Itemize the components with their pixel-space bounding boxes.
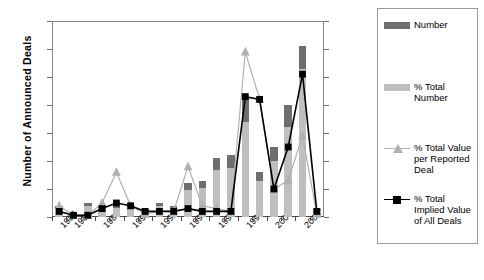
right-axis-tick [324, 133, 329, 134]
marker-square [56, 208, 63, 215]
x-axis-tick [95, 217, 96, 221]
legend-item: Number [384, 19, 474, 30]
marker-square [84, 212, 91, 219]
x-axis-tick [81, 217, 82, 221]
marker-square [113, 200, 120, 207]
right-axis-tick [324, 21, 329, 22]
marker-triangle [298, 131, 307, 140]
legend-item-label: % Total Value per Reported Deal [414, 142, 474, 175]
legend-item-label: Number [414, 19, 448, 30]
x-axis-tick [109, 217, 110, 221]
legend-marker-icon [384, 194, 410, 205]
marker-square [213, 208, 220, 215]
plot-area: 010203040506070 0%5%10%15%20%25%30%35% 1… [52, 21, 324, 217]
marker-square [228, 208, 235, 215]
x-axis-tick [252, 217, 253, 221]
x-axis-tick [310, 217, 311, 221]
marker-square [142, 208, 149, 215]
legend-item: % Total Value per Reported Deal [384, 142, 474, 175]
x-axis-tick [66, 217, 67, 221]
x-axis-tick [52, 217, 53, 221]
chart-legend: Number% Total Number% Total Value per Re… [377, 8, 478, 244]
legend-item: % Total Implied Value of All Deals [384, 193, 474, 226]
marker-square [156, 208, 163, 215]
legend-swatch-icon [384, 22, 410, 29]
marker-square [285, 144, 292, 151]
chart-figure: Number of Announced Deals Percent of 198… [0, 0, 484, 280]
marker-triangle [184, 162, 193, 171]
legend-triangle-icon [393, 144, 403, 153]
legend-marker-icon [384, 143, 410, 154]
marker-square [271, 186, 278, 193]
x-axis-tick [195, 217, 196, 221]
right-axis-tick [324, 105, 329, 106]
marker-square [242, 93, 249, 100]
marker-triangle [112, 167, 121, 176]
right-axis-tick [324, 189, 329, 190]
right-axis-tick [324, 217, 329, 218]
x-axis-tick [138, 217, 139, 221]
x-axis-tick [295, 217, 296, 221]
marker-triangle [284, 176, 293, 185]
x-axis-tick [267, 217, 268, 221]
marker-square [70, 212, 77, 219]
left-axis-title: Number of Announced Deals [21, 26, 33, 196]
legend-swatch-icon [384, 84, 410, 91]
marker-square [199, 208, 206, 215]
x-axis-tick [167, 217, 168, 221]
line-value-per-deal [59, 52, 317, 216]
marker-triangle [241, 47, 250, 56]
legend-item-label: % Total Number [414, 81, 474, 103]
marker-square [170, 208, 177, 215]
legend-item-label: % Total Implied Value of All Deals [414, 193, 474, 226]
legend-item: % Total Number [384, 81, 474, 103]
right-axis-tick [324, 161, 329, 162]
x-axis-tick [209, 217, 210, 221]
x-axis-tick [224, 217, 225, 221]
x-axis-tick [124, 217, 125, 221]
x-axis-tick [181, 217, 182, 221]
x-axis-tick [152, 217, 153, 221]
legend-square-icon [393, 196, 401, 204]
marker-square [185, 205, 192, 212]
right-axis-tick [324, 49, 329, 50]
marker-square [299, 71, 306, 78]
x-axis-tick [281, 217, 282, 221]
marker-square [127, 202, 134, 209]
line-implied-value [59, 74, 317, 215]
right-axis-tick [324, 77, 329, 78]
marker-square [256, 96, 263, 103]
x-axis-tick [238, 217, 239, 221]
line-series-group [52, 21, 324, 217]
marker-square [99, 205, 106, 212]
marker-square [313, 208, 320, 215]
